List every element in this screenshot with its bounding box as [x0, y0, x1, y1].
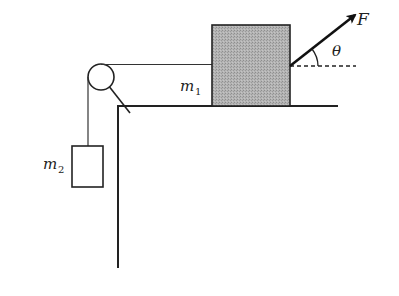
angle-arc-theta	[312, 49, 318, 66]
block-m2	[72, 146, 103, 187]
label-m1-subscript: 1	[195, 86, 201, 97]
force-arrow-F	[290, 15, 355, 66]
block-m1	[212, 25, 290, 106]
label-theta: θ	[332, 42, 341, 60]
pulley	[88, 64, 114, 90]
label-force: F	[356, 9, 370, 29]
label-m1: m	[180, 77, 194, 95]
label-m2: m	[43, 155, 57, 173]
label-m2-subscript: 2	[58, 164, 64, 175]
physics-diagram: F θ m 1 m 2	[0, 0, 399, 296]
